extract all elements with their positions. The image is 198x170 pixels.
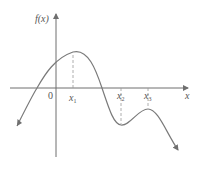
function-curve bbox=[17, 52, 178, 150]
tick-label-x1: x1 bbox=[69, 93, 76, 104]
x-axis-label: x bbox=[185, 91, 189, 101]
tick-x1-sub: 1 bbox=[73, 98, 76, 104]
graph-canvas bbox=[0, 0, 198, 170]
tick-label-x2: x2 bbox=[117, 91, 124, 102]
y-axis-label: f(x) bbox=[35, 14, 49, 24]
origin-label: 0 bbox=[48, 91, 53, 101]
tick-x3-sub: 3 bbox=[148, 96, 151, 102]
function-graph: f(x) x 0 x1 x2 x3 bbox=[0, 0, 198, 170]
tick-label-x3: x3 bbox=[144, 91, 151, 102]
tick-x2-sub: 2 bbox=[121, 96, 124, 102]
